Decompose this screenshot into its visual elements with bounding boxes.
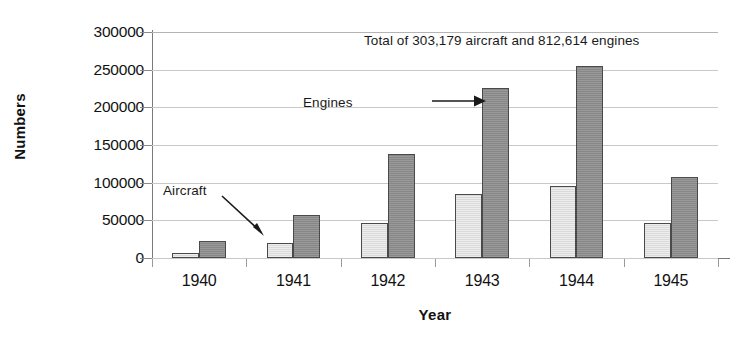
x-axis-tick-label: 1940 bbox=[152, 272, 246, 290]
bar-engines-1942 bbox=[388, 154, 415, 258]
x-axis-tick-label: 1944 bbox=[529, 272, 623, 290]
y-axis-tick-mark bbox=[140, 183, 152, 184]
x-axis-tick-label: 1945 bbox=[624, 272, 718, 290]
y-axis-tick-label: 50000 bbox=[44, 212, 144, 228]
y-axis-tick-label: 0 bbox=[44, 250, 144, 266]
annotation-engines-label: Engines bbox=[303, 95, 353, 110]
x-axis-tick-mark bbox=[718, 259, 719, 267]
x-axis-tick-label: 1941 bbox=[246, 272, 340, 290]
x-axis-title: Year bbox=[152, 306, 718, 323]
bar-engines-1940 bbox=[199, 241, 226, 258]
bar-engines-1941 bbox=[293, 215, 320, 258]
y-axis-tick-mark bbox=[140, 107, 152, 108]
bar-chart: Numbers 30000025000020000015000010000050… bbox=[0, 0, 746, 355]
bar-group bbox=[435, 32, 529, 258]
y-axis-tick-mark bbox=[140, 32, 152, 33]
bar-aircraft-1943 bbox=[455, 194, 482, 258]
y-axis-tick-label: 300000 bbox=[44, 24, 144, 40]
bar-group bbox=[624, 32, 718, 258]
x-axis-tick-label: 1942 bbox=[341, 272, 435, 290]
y-axis-tick-mark bbox=[140, 258, 152, 259]
x-axis-tick-mark bbox=[246, 259, 247, 267]
x-axis-tick-mark bbox=[341, 259, 342, 267]
bar-engines-1943 bbox=[482, 88, 509, 258]
annotation-aircraft-arrow-icon bbox=[222, 196, 272, 242]
x-axis-tick-mark bbox=[152, 259, 153, 267]
bar-engines-1945 bbox=[671, 177, 698, 258]
y-axis-tick-labels: 300000250000200000150000100000500000 bbox=[44, 0, 144, 355]
y-axis-title: Numbers bbox=[11, 72, 28, 182]
bar-group bbox=[529, 32, 623, 258]
bar-group bbox=[341, 32, 435, 258]
x-axis-tick-mark bbox=[529, 259, 530, 267]
y-axis-tick-label: 200000 bbox=[44, 99, 144, 115]
annotation-aircraft-label: Aircraft bbox=[163, 183, 207, 198]
x-axis-tick-mark bbox=[435, 259, 436, 267]
y-axis-tick-mark bbox=[140, 70, 152, 71]
bar-aircraft-1945 bbox=[644, 223, 671, 258]
annotation-total-label: Total of 303,179 aircraft and 812,614 en… bbox=[364, 33, 639, 48]
bar-aircraft-1941 bbox=[267, 243, 294, 258]
x-axis-tick-mark bbox=[624, 259, 625, 267]
x-axis-tick-label: 1943 bbox=[435, 272, 529, 290]
bar-aircraft-1942 bbox=[361, 223, 388, 258]
y-axis-tick-label: 150000 bbox=[44, 137, 144, 153]
x-axis-tick-labels: 194019411942194319441945 bbox=[152, 272, 718, 302]
y-axis-tick-mark bbox=[140, 220, 152, 221]
bar-engines-1944 bbox=[576, 66, 603, 258]
y-axis-tick-label: 100000 bbox=[44, 175, 144, 191]
annotation-engines-arrow-icon bbox=[432, 94, 486, 108]
y-axis-tick-label: 250000 bbox=[44, 62, 144, 78]
bar-aircraft-1944 bbox=[550, 186, 577, 258]
y-axis-tick-mark bbox=[140, 145, 152, 146]
bar-aircraft-1940 bbox=[172, 253, 199, 258]
